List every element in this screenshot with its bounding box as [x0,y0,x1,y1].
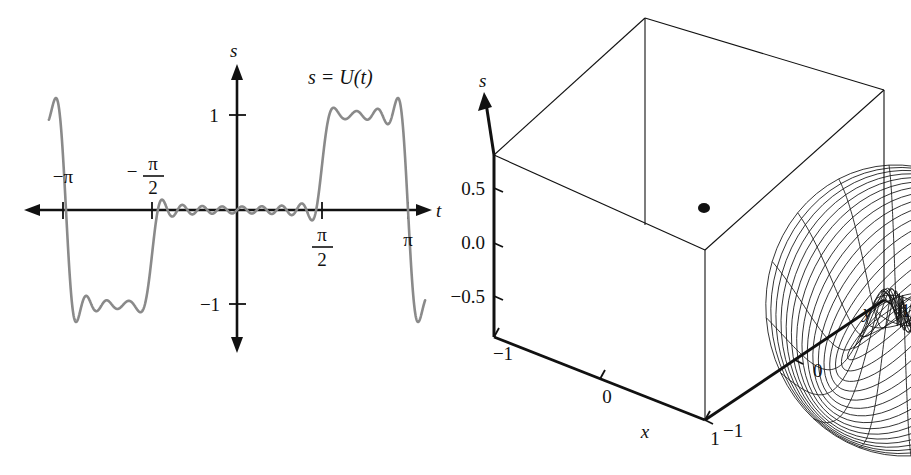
chart-panel-surface-3d: s x y 0.5 0.0 −0.5 −1 0 1 −1 0 1 [455,0,911,475]
z-axis-label: s [479,70,486,91]
neg-sign: − [127,161,138,182]
x-tick-label-neg-pi: −π [53,166,74,187]
x-axis-right-arrowhead [416,204,432,216]
x-axis-left-arrowhead [24,204,40,216]
z-tick-label-neg05: −0.5 [451,286,485,307]
z-axis-arrowhead [478,92,492,111]
y-tick-label-one: 1 [209,105,219,126]
figure-root: s t s = U(t) −π − π 2 π 2 π 1 [0,0,911,475]
y-tick-label-0: 0 [813,360,823,381]
x-tick-label-half-pi: π 2 [312,224,333,270]
denominator: 2 [317,249,327,270]
z-tick-label-05: 0.5 [461,178,485,199]
y-axis-label: s [230,40,237,61]
y-tick-label-neg1: −1 [723,420,743,441]
y-axis-bottom-arrowhead [231,337,243,353]
numerator: π [148,153,158,174]
surface-3d-svg: s x y 0.5 0.0 −0.5 −1 0 1 −1 0 1 [455,0,911,475]
y-tick-label-1: 1 [901,300,911,321]
numerator: π [317,224,327,245]
bounding-box-thick-edges [494,300,884,420]
x-axis-label: x [640,421,650,442]
y-tick-label-neg-one: −1 [200,294,220,315]
x-axis-label: t [436,200,442,221]
x-tick-label-neg-half-pi: − π 2 [127,153,164,198]
x-tick-label-neg1: −1 [493,343,513,364]
denominator: 2 [148,177,158,198]
x-tick-label-0: 0 [602,386,612,407]
y-axis-label: y [861,301,872,322]
fourier-2d-svg: s t s = U(t) −π − π 2 π 2 π 1 [0,0,455,475]
x-tick-label-pi: π [403,229,413,250]
y-axis-top-arrowhead [231,64,243,80]
z-tick-label-00: 0.0 [461,232,485,253]
surface-singular-point [698,203,710,213]
curve-label: s = U(t) [308,66,373,89]
x-tick-label-1: 1 [710,428,720,449]
chart-panel-fourier-2d: s t s = U(t) −π − π 2 π 2 π 1 [0,0,455,475]
polar-surface-mesh [766,165,911,456]
